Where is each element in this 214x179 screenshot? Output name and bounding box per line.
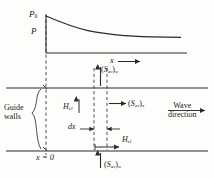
- label-ht1: Ht1: [122, 136, 132, 145]
- waveguide-attenuation-figure: P0 P x (Sav)w (Sav)x (Sav)w Ht2 Ht1 dx x…: [0, 0, 214, 179]
- label-ht2: Ht2: [63, 103, 73, 112]
- power-decay-curve: [46, 16, 181, 37]
- label-guide-walls: Guidewalls: [4, 103, 24, 121]
- label-dx: dx: [68, 123, 76, 131]
- label-x-axis: x: [110, 56, 114, 65]
- label-sav-w-top: (Sav)w: [101, 66, 118, 75]
- label-wave-direction: Wavedirection: [168, 101, 196, 119]
- label-p-zero: P0: [29, 10, 37, 20]
- label-x-equals-zero: x = 0: [36, 153, 54, 162]
- label-p: P: [31, 27, 37, 36]
- label-sav-w-bottom: (Sav)w: [104, 161, 121, 170]
- label-sav-x: (Sav)x: [128, 100, 144, 109]
- guide-walls-brace: [32, 89, 41, 149]
